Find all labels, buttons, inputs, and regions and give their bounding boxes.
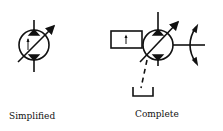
drain-line bbox=[141, 60, 147, 88]
label-complete: Complete bbox=[135, 109, 179, 119]
simplified-symbol bbox=[18, 20, 54, 72]
label-simplified: Simplified bbox=[9, 111, 55, 121]
tank-icon bbox=[133, 87, 153, 96]
complete-symbol bbox=[111, 12, 205, 96]
rotation-arrowhead-top-icon bbox=[193, 26, 197, 32]
flow-arrowhead-icon bbox=[27, 38, 30, 42]
rotation-arrowhead-bottom-icon bbox=[193, 58, 197, 64]
control-arrowhead-icon bbox=[125, 35, 128, 39]
